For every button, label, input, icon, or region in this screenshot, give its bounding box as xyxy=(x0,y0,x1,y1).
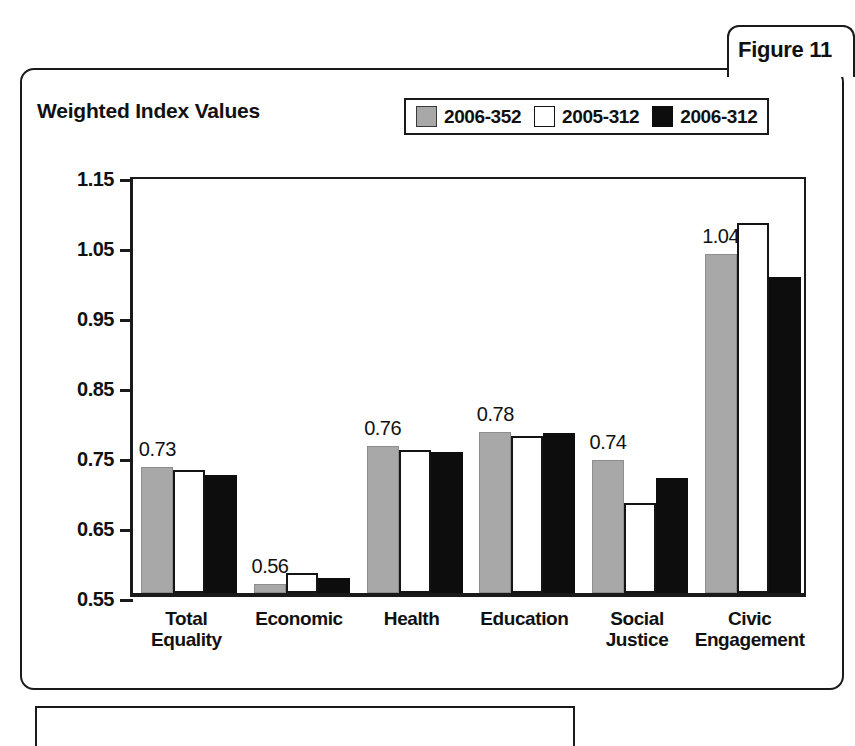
y-axis-tick-mark xyxy=(120,599,133,602)
y-axis-tick-mark xyxy=(120,389,133,392)
figure-tab: Figure 11 xyxy=(727,25,855,77)
y-axis-tick-mark xyxy=(120,249,133,252)
legend-label: 2005-312 xyxy=(562,106,639,128)
chart-title: Weighted Index Values xyxy=(37,99,260,123)
bar-value-label: 0.78 xyxy=(477,403,514,426)
bar-group: 0.74 xyxy=(584,179,697,593)
bar[interactable]: 0.78 xyxy=(479,432,511,593)
figure-tab-label: Figure 11 xyxy=(729,37,841,63)
bar[interactable] xyxy=(543,433,575,593)
bar-value-label: 0.76 xyxy=(364,417,401,440)
bar-group: 0.76 xyxy=(358,179,471,593)
bar[interactable] xyxy=(624,503,656,593)
y-axis-tick-label: 1.05 xyxy=(38,238,114,261)
legend-item: 2006-312 xyxy=(652,106,757,128)
y-axis-tick-label: 0.75 xyxy=(38,448,114,471)
y-axis-tick-mark xyxy=(120,529,133,532)
bar[interactable] xyxy=(737,223,769,593)
legend-item: 2006-352 xyxy=(416,106,521,128)
chart-legend: 2006-3522005-3122006-312 xyxy=(404,98,769,135)
plot-area: 1.151.050.950.850.750.650.550.730.560.76… xyxy=(130,177,806,597)
bar-group: 0.78 xyxy=(471,179,584,593)
bar-group: 0.56 xyxy=(246,179,359,593)
y-axis-tick-label: 1.15 xyxy=(38,168,114,191)
y-axis-tick-mark xyxy=(120,319,133,322)
bar[interactable]: 0.56 xyxy=(254,584,286,593)
bar[interactable]: 0.73 xyxy=(141,467,173,593)
caption-box xyxy=(35,706,575,746)
y-axis-tick-label: 0.65 xyxy=(38,518,114,541)
y-axis-tick-mark xyxy=(120,459,133,462)
bar[interactable] xyxy=(656,478,688,594)
bar[interactable] xyxy=(286,573,318,593)
y-axis-tick-label: 0.95 xyxy=(38,308,114,331)
bar-value-label: 0.73 xyxy=(139,438,176,461)
bar-value-label: 0.74 xyxy=(590,431,627,454)
legend-label: 2006-352 xyxy=(444,106,521,128)
legend-swatch-icon xyxy=(652,106,673,127)
bar[interactable] xyxy=(318,578,350,593)
bar[interactable] xyxy=(205,475,237,593)
bar[interactable] xyxy=(511,436,543,593)
bar-value-label: 1.04 xyxy=(702,225,739,248)
y-axis-tick-label: 0.85 xyxy=(38,378,114,401)
y-axis-tick-label: 0.55 xyxy=(38,588,114,611)
bar-group: 0.73 xyxy=(133,179,246,593)
bar[interactable] xyxy=(399,450,431,594)
bar-group: 1.04 xyxy=(696,179,809,593)
y-axis-tick-mark xyxy=(120,179,133,182)
legend-swatch-icon xyxy=(534,106,555,127)
legend-item: 2005-312 xyxy=(534,106,639,128)
bar[interactable] xyxy=(431,452,463,593)
legend-label: 2006-312 xyxy=(680,106,757,128)
legend-swatch-icon xyxy=(416,106,437,127)
bar[interactable] xyxy=(173,470,205,593)
bar[interactable]: 0.76 xyxy=(367,446,399,593)
bar[interactable]: 0.74 xyxy=(592,460,624,593)
bar[interactable] xyxy=(769,277,801,593)
bar[interactable]: 1.04 xyxy=(705,254,737,594)
bar-value-label: 0.56 xyxy=(252,555,289,578)
